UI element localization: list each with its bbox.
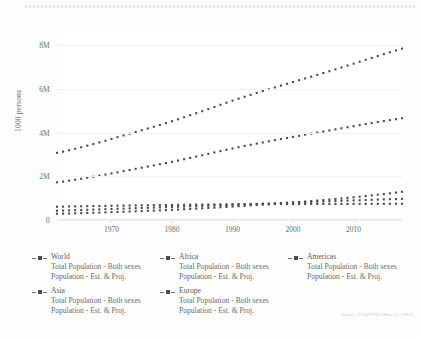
series-world [56, 48, 403, 154]
chart-page: 1000 persons 02M4M6M8M197019801990200020… [0, 0, 421, 338]
x-axis-tick [354, 220, 355, 223]
legend-series-detail-1: Total Population - Both sexes [51, 296, 141, 306]
x-axis-tick-label: 1980 [165, 225, 180, 234]
series-europe [56, 203, 403, 208]
y-axis-tick-label: 4M [39, 128, 50, 137]
x-axis-tick-label: 1970 [104, 225, 119, 234]
y-gridline [57, 220, 402, 221]
legend-item-americas[interactable]: AmericasTotal Population - Both sexesPop… [288, 252, 421, 282]
y-gridline [57, 45, 402, 46]
source-attribution: Source: FAOSTAT (Mar 11, 2019) [341, 312, 413, 317]
y-axis-title: 1000 persons [14, 90, 23, 132]
legend-series-detail-2: Population - Est. & Proj. [179, 306, 269, 316]
legend-text: AfricaTotal Population - Both sexesPopul… [179, 252, 269, 282]
series-africa [56, 191, 403, 215]
legend-series-detail-2: Population - Est. & Proj. [307, 272, 397, 282]
top-dotted-rule [25, 5, 417, 8]
legend-item-europe[interactable]: EuropeTotal Population - Both sexesPopul… [160, 286, 288, 316]
series-layer [57, 32, 402, 220]
legend-series-detail-2: Population - Est. & Proj. [51, 306, 141, 316]
population-line-chart: 1000 persons 02M4M6M8M197019801990200020… [0, 14, 421, 242]
y-gridline [57, 89, 402, 90]
chart-legend: WorldTotal Population - Both sexesPopula… [32, 252, 421, 314]
legend-text: AsiaTotal Population - Both sexesPopulat… [51, 286, 141, 316]
legend-series-detail-1: Total Population - Both sexes [307, 262, 397, 272]
legend-series-name: Asia [51, 286, 141, 296]
legend-series-detail-2: Population - Est. & Proj. [179, 272, 269, 282]
legend-item-asia[interactable]: AsiaTotal Population - Both sexesPopulat… [32, 286, 160, 316]
legend-series-name: World [51, 252, 141, 262]
y-gridline [57, 133, 402, 134]
series-americas [56, 198, 403, 212]
legend-series-detail-1: Total Population - Both sexes [179, 262, 269, 272]
y-axis-tick-label: 6M [39, 84, 50, 93]
legend-item-world[interactable]: WorldTotal Population - Both sexesPopula… [32, 252, 160, 282]
legend-series-name: Europe [179, 286, 269, 296]
legend-text: AmericasTotal Population - Both sexesPop… [307, 252, 397, 282]
legend-marker-icon [32, 254, 47, 263]
x-axis-tick [111, 220, 112, 223]
legend-series-name: Americas [307, 252, 397, 262]
y-gridline [57, 176, 402, 177]
legend-series-name: Africa [179, 252, 269, 262]
x-axis-tick [293, 220, 294, 223]
legend-series-detail-1: Total Population - Both sexes [179, 296, 269, 306]
legend-series-detail-1: Total Population - Both sexes [51, 262, 141, 272]
x-axis-tick [233, 220, 234, 223]
legend-item-africa[interactable]: AfricaTotal Population - Both sexesPopul… [160, 252, 288, 282]
y-axis-tick-label: 2M [39, 172, 50, 181]
x-axis-tick [172, 220, 173, 223]
plot-area: 02M4M6M8M19701980199020002010 [57, 32, 402, 220]
legend-marker-icon [160, 254, 175, 263]
legend-marker-icon [288, 254, 303, 263]
legend-series-detail-2: Population - Est. & Proj. [51, 272, 141, 282]
y-axis-tick-label: 8M [39, 41, 50, 50]
x-axis-tick-label: 2010 [346, 225, 361, 234]
y-axis-tick-label: 0 [46, 216, 50, 225]
legend-text: WorldTotal Population - Both sexesPopula… [51, 252, 141, 282]
legend-marker-icon [32, 288, 47, 297]
series-asia [56, 117, 403, 183]
legend-text: EuropeTotal Population - Both sexesPopul… [179, 286, 269, 316]
x-axis-tick-label: 2000 [286, 225, 301, 234]
legend-marker-icon [160, 288, 175, 297]
x-axis-tick-label: 1990 [225, 225, 240, 234]
